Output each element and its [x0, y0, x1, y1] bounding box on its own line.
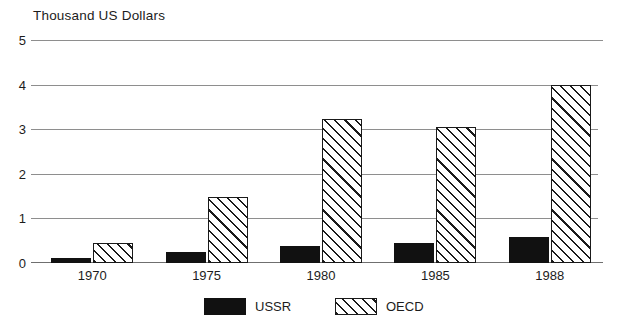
chart-title: Thousand US Dollars [33, 8, 165, 23]
legend-item-oecd[interactable]: OECD [335, 298, 424, 315]
chart-screenshot: Thousand US Dollars 012345 1970197519801… [0, 0, 643, 335]
bar-oecd-1980 [322, 119, 362, 263]
bar-ussr-1985 [394, 243, 434, 263]
bar-ussr-1975 [166, 252, 206, 263]
x-tick-label-1985: 1985 [405, 268, 465, 283]
bar-oecd-1975 [208, 197, 248, 263]
x-tick-label-1975: 1975 [177, 268, 237, 283]
y-tick-label: 1 [6, 211, 26, 226]
bar-oecd-1985 [436, 127, 476, 263]
chart-legend: USSROECD [0, 296, 643, 326]
x-tick-label-1970: 1970 [62, 268, 122, 283]
legend-label-ussr: USSR [255, 299, 291, 314]
y-tick-label: 2 [6, 166, 26, 181]
gridline-1 [31, 218, 598, 219]
y-axis-tick-labels: 012345 [6, 40, 26, 263]
plot-area [31, 40, 603, 263]
gridline-5 [31, 40, 603, 41]
hatched-swatch [335, 298, 377, 315]
x-tick-label-1980: 1980 [291, 268, 351, 283]
bar-ussr-1970 [51, 258, 91, 263]
solid-black-swatch [204, 298, 246, 315]
bar-ussr-1988 [509, 237, 549, 263]
bar-oecd-1970 [93, 243, 133, 263]
legend-item-ussr[interactable]: USSR [204, 298, 291, 315]
bar-ussr-1980 [280, 246, 320, 263]
gridline-2 [31, 174, 598, 175]
y-tick-label: 4 [6, 77, 26, 92]
x-tick-label-1988: 1988 [520, 268, 580, 283]
y-tick-label: 5 [6, 33, 26, 48]
y-tick-label: 3 [6, 122, 26, 137]
legend-label-oecd: OECD [386, 299, 424, 314]
gridline-3 [31, 129, 598, 130]
bar-oecd-1988 [551, 85, 591, 263]
gridline-4 [31, 85, 598, 86]
y-tick-label: 0 [6, 256, 26, 271]
